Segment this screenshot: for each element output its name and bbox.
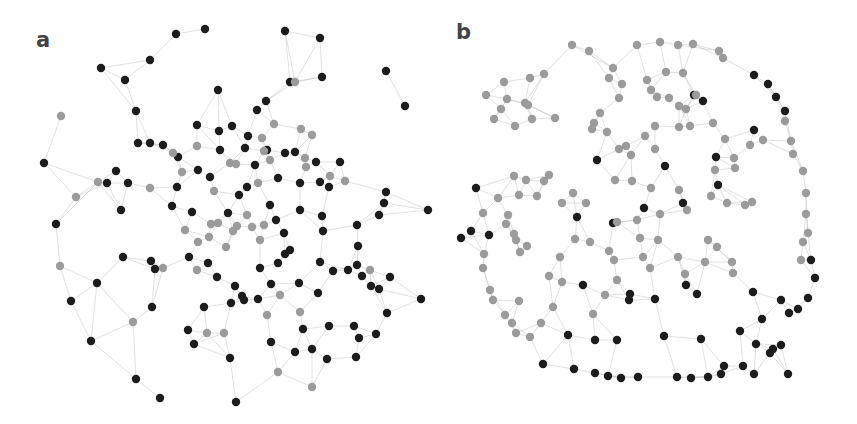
gray-node bbox=[651, 145, 659, 153]
network-edge bbox=[194, 344, 230, 358]
black-node bbox=[132, 375, 140, 383]
gray-node bbox=[686, 122, 694, 130]
black-node bbox=[367, 282, 375, 290]
network-edge bbox=[56, 224, 60, 266]
black-node bbox=[564, 331, 572, 339]
black-node bbox=[124, 179, 132, 187]
black-node bbox=[352, 353, 360, 361]
gray-node bbox=[596, 109, 604, 117]
gray-node bbox=[181, 226, 189, 234]
gray-node bbox=[571, 235, 579, 243]
gray-node bbox=[729, 269, 737, 277]
black-node bbox=[172, 30, 180, 38]
gray-node bbox=[675, 186, 683, 194]
network-edge bbox=[97, 283, 133, 322]
network-edge bbox=[44, 116, 61, 163]
network-edge bbox=[150, 188, 172, 206]
gray-node bbox=[258, 134, 266, 142]
network-edge bbox=[312, 326, 329, 349]
network-edge bbox=[285, 31, 290, 82]
gray-node bbox=[704, 236, 712, 244]
black-node bbox=[372, 330, 380, 338]
gray-node bbox=[243, 211, 251, 219]
gray-node bbox=[497, 105, 505, 113]
black-node bbox=[314, 289, 322, 297]
gray-node bbox=[479, 264, 487, 272]
gray-node bbox=[799, 167, 807, 175]
black-node bbox=[156, 394, 164, 402]
black-node bbox=[184, 326, 192, 334]
black-node bbox=[308, 345, 316, 353]
black-node bbox=[712, 153, 720, 161]
gray-node bbox=[494, 194, 502, 202]
gray-node bbox=[654, 236, 662, 244]
network-edge bbox=[133, 322, 136, 379]
black-node bbox=[146, 139, 154, 147]
gray-node bbox=[129, 318, 137, 326]
gray-node bbox=[711, 166, 719, 174]
gray-node bbox=[627, 151, 635, 159]
gray-node bbox=[586, 238, 594, 246]
black-node bbox=[121, 76, 129, 84]
black-node bbox=[193, 121, 201, 129]
black-node bbox=[336, 158, 344, 166]
black-node bbox=[103, 179, 111, 187]
black-node bbox=[274, 259, 282, 267]
black-node bbox=[383, 309, 391, 317]
black-node bbox=[318, 73, 326, 81]
black-node bbox=[720, 362, 728, 370]
gray-node bbox=[523, 242, 531, 250]
black-node bbox=[749, 288, 757, 296]
network-edge bbox=[285, 31, 320, 38]
edges-panel-a bbox=[44, 29, 428, 402]
black-node bbox=[151, 265, 159, 273]
gray-node bbox=[233, 222, 241, 230]
network-edge bbox=[323, 225, 357, 231]
gray-node bbox=[503, 95, 511, 103]
black-node bbox=[693, 290, 701, 298]
network-edge bbox=[136, 379, 160, 398]
network-edge bbox=[461, 238, 484, 254]
black-node bbox=[579, 281, 587, 289]
black-node bbox=[67, 297, 75, 305]
black-node bbox=[40, 159, 48, 167]
gray-node bbox=[528, 115, 536, 123]
black-node bbox=[661, 162, 669, 170]
black-node bbox=[380, 199, 388, 207]
black-node bbox=[591, 369, 599, 377]
gray-node bbox=[540, 70, 548, 78]
gray-node bbox=[540, 177, 548, 185]
black-node bbox=[296, 179, 304, 187]
gray-node bbox=[512, 329, 520, 337]
network-edge bbox=[763, 140, 791, 141]
black-node bbox=[224, 209, 232, 217]
gray-node bbox=[263, 311, 271, 319]
network-edge bbox=[708, 240, 732, 262]
network-edge bbox=[718, 185, 752, 202]
network-edge bbox=[320, 231, 323, 262]
gray-node bbox=[692, 91, 700, 99]
gray-node bbox=[588, 125, 596, 133]
gray-node bbox=[643, 76, 651, 84]
black-node bbox=[781, 107, 789, 115]
network-edge bbox=[390, 277, 421, 299]
black-node bbox=[194, 166, 202, 174]
gray-node bbox=[512, 236, 520, 244]
black-node bbox=[699, 97, 707, 105]
network-edge bbox=[678, 45, 683, 73]
gray-node bbox=[589, 310, 597, 318]
black-node bbox=[750, 71, 758, 79]
black-node bbox=[201, 25, 209, 33]
gray-node bbox=[611, 176, 619, 184]
gray-node bbox=[480, 250, 488, 258]
gray-node bbox=[56, 262, 64, 270]
gray-node bbox=[524, 101, 532, 109]
black-node bbox=[319, 227, 327, 235]
black-node bbox=[752, 340, 760, 348]
gray-node bbox=[646, 264, 654, 272]
gray-node bbox=[270, 120, 278, 128]
gray-node bbox=[169, 149, 177, 157]
gray-node bbox=[797, 256, 805, 264]
black-node bbox=[267, 280, 275, 288]
gray-node bbox=[701, 258, 709, 266]
